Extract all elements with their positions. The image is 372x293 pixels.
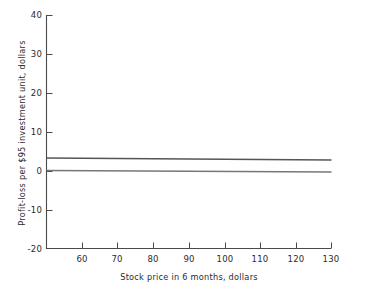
- x-tick-label: 100: [210, 254, 240, 264]
- x-tick-label: 60: [67, 254, 97, 264]
- y-tick-label: 30: [16, 49, 42, 59]
- y-tick-label: 0: [16, 166, 42, 176]
- y-tick-label: 10: [16, 127, 42, 137]
- y-tick-label: 40: [16, 10, 42, 20]
- x-tick-label: 110: [245, 254, 275, 264]
- x-tick-marks: [83, 243, 332, 249]
- x-tick-label: 130: [316, 254, 346, 264]
- data-series-group: [47, 158, 332, 172]
- x-tick-label-group: 60 70 80 90 100 110 120 130: [0, 254, 372, 268]
- y-tick-marks: [47, 16, 53, 249]
- data-line-lower-line: [47, 170, 332, 172]
- x-axis-title: Stock price in 6 months, dollars: [46, 272, 332, 282]
- x-tick-label: 90: [174, 254, 204, 264]
- data-line-upper-line: [47, 158, 332, 160]
- plot-area: [0, 0, 372, 293]
- x-tick-label: 120: [281, 254, 311, 264]
- y-tick-label-group: 40 30 20 10 0 -10 -20: [12, 0, 42, 293]
- y-tick-label: -10: [16, 205, 42, 215]
- y-tick-label: 20: [16, 88, 42, 98]
- x-tick-label: 70: [102, 254, 132, 264]
- profit-loss-chart: Profit-loss per $95 investment unit, dol…: [0, 0, 372, 293]
- x-tick-label: 80: [138, 254, 168, 264]
- y-tick-label: -20: [16, 244, 42, 254]
